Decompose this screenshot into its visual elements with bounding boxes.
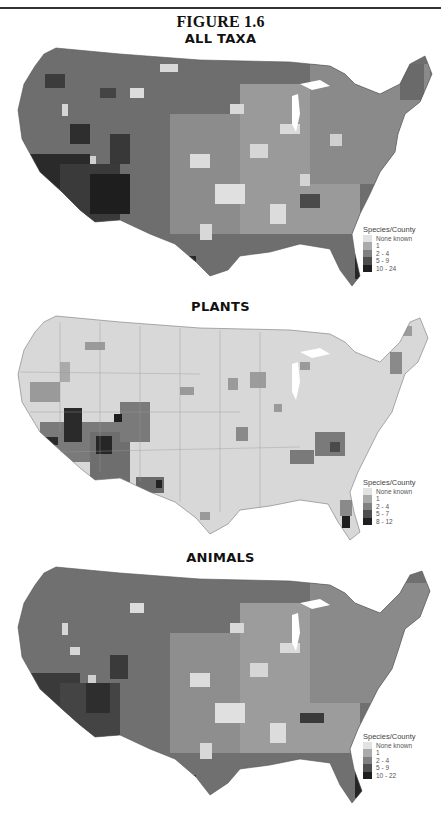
legend-item: 8 - 12 bbox=[363, 518, 416, 526]
legend-swatch bbox=[363, 250, 372, 258]
legend-swatch bbox=[363, 742, 372, 750]
legend-swatch bbox=[363, 488, 372, 496]
legend-item: 5 - 9 bbox=[363, 764, 416, 772]
legend-swatch bbox=[363, 510, 372, 518]
legend-swatch bbox=[363, 242, 372, 250]
legend-item: None known bbox=[363, 488, 416, 496]
legend-item: None known bbox=[363, 742, 416, 750]
legend-item: 2 - 4 bbox=[363, 757, 416, 765]
legend-swatch bbox=[363, 749, 372, 757]
top-rule bbox=[0, 7, 441, 9]
legend-swatch bbox=[363, 503, 372, 511]
legend-swatch bbox=[363, 764, 372, 772]
legend-item: 5 - 7 bbox=[363, 510, 416, 518]
legend-item: 1 bbox=[363, 242, 416, 250]
legend-plants: Species/County None known 1 2 - 4 5 - 7 … bbox=[363, 479, 416, 525]
figure-title: FIGURE 1.6 bbox=[0, 13, 441, 31]
legend-swatch bbox=[363, 495, 372, 503]
legend-all-taxa: Species/County None known 1 2 - 4 5 - 9 … bbox=[363, 226, 416, 272]
legend-swatch bbox=[363, 757, 372, 765]
legend-item: 1 bbox=[363, 749, 416, 757]
legend-title: Species/County bbox=[363, 226, 416, 234]
legend-item: 2 - 4 bbox=[363, 503, 416, 511]
legend-title: Species/County bbox=[363, 479, 416, 487]
legend-swatch bbox=[363, 518, 372, 526]
legend-animals: Species/County None known 1 2 - 4 5 - 9 … bbox=[363, 733, 416, 779]
legend-swatch bbox=[363, 257, 372, 265]
legend-swatch bbox=[363, 265, 372, 273]
legend-swatch bbox=[363, 235, 372, 243]
legend-swatch bbox=[363, 772, 372, 780]
legend-item: None known bbox=[363, 235, 416, 243]
legend-item: 5 - 9 bbox=[363, 257, 416, 265]
legend-item: 10 - 24 bbox=[363, 265, 416, 273]
legend-title: Species/County bbox=[363, 733, 416, 741]
legend-item: 10 - 22 bbox=[363, 772, 416, 780]
legend-item: 2 - 4 bbox=[363, 250, 416, 258]
legend-item: 1 bbox=[363, 495, 416, 503]
